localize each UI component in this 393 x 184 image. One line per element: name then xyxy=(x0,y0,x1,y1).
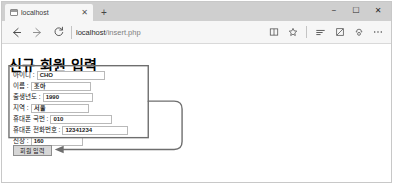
tab-strip: localhost ✕ + − ☐ ✕ xyxy=(2,2,391,21)
address-divider xyxy=(71,26,72,39)
input-mobile-prefix[interactable]: 010 xyxy=(50,115,112,124)
input-userid[interactable]: CHO xyxy=(37,71,105,80)
page-content: 신규 회원 입력 아이디 : CHO 이름 : 조아 출생년도 : 1990 지… xyxy=(2,43,391,182)
browser-tab[interactable]: localhost ✕ xyxy=(5,4,93,21)
field-label-name: 이름 : xyxy=(13,83,29,90)
browser-toolbar xyxy=(264,22,387,42)
form-row: 지역 : 서울 xyxy=(13,103,128,113)
favorites-star-icon[interactable] xyxy=(283,22,302,42)
new-tab-button[interactable]: + xyxy=(98,8,110,18)
form-row: 아이디 : CHO xyxy=(13,70,128,80)
hub-lines-icon[interactable] xyxy=(311,22,330,42)
input-birthyear[interactable]: 1990 xyxy=(43,93,93,102)
close-icon[interactable]: ✕ xyxy=(80,9,89,17)
forward-arrow-icon[interactable] xyxy=(27,22,48,42)
maximize-icon[interactable]: ☐ xyxy=(345,3,367,19)
input-region[interactable]: 서울 xyxy=(31,104,89,113)
field-label-mobile-prefix: 휴대폰 국번 : xyxy=(13,116,48,123)
page-icon xyxy=(10,9,18,16)
field-label-height: 신장 : xyxy=(13,138,29,145)
form-row: 이름 : 조아 xyxy=(13,81,128,91)
window-controls: − ☐ ✕ xyxy=(323,3,389,19)
close-window-icon[interactable]: ✕ xyxy=(367,3,389,19)
field-label-region: 지역 : xyxy=(13,105,29,112)
refresh-icon[interactable] xyxy=(48,22,69,42)
tab-title: localhost xyxy=(21,9,77,16)
input-mobile-number[interactable]: 12341234 xyxy=(62,126,128,135)
form-row: 출생년도 : 1990 xyxy=(13,92,128,102)
member-input-form: 아이디 : CHO 이름 : 조아 출생년도 : 1990 지역 : 서울 휴대… xyxy=(13,70,128,147)
address-host: localhost xyxy=(76,28,106,37)
field-label-birthyear: 출생년도 : xyxy=(13,94,41,101)
toolbar-divider xyxy=(306,26,307,38)
web-note-pen-icon[interactable] xyxy=(330,22,349,42)
more-ellipsis-icon[interactable] xyxy=(368,22,387,42)
back-arrow-icon[interactable] xyxy=(6,22,27,42)
reading-view-icon[interactable] xyxy=(264,22,283,42)
form-row: 휴대폰 전화번호 : 12341234 xyxy=(13,125,128,135)
address-bar-input[interactable]: localhost/insert.php xyxy=(76,22,264,42)
minimize-icon[interactable]: − xyxy=(323,3,345,19)
field-label-userid: 아이디 : xyxy=(13,72,35,79)
form-row: 휴대폰 국번 : 010 xyxy=(13,114,128,124)
field-label-mobile-number: 휴대폰 전화번호 : xyxy=(13,127,60,134)
address-path: /insert.php xyxy=(106,28,141,37)
input-name[interactable]: 조아 xyxy=(31,82,91,91)
share-icon[interactable] xyxy=(349,22,368,42)
submit-member-button[interactable]: 회원 입력 xyxy=(13,145,52,156)
navigation-bar: localhost/insert.php xyxy=(2,21,391,43)
browser-window: localhost ✕ + − ☐ ✕ lo xyxy=(1,1,392,183)
